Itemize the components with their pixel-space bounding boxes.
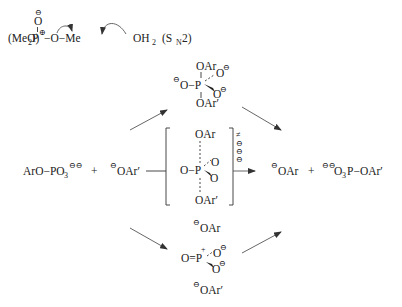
leaving-group-label: OAr <box>278 165 299 177</box>
arrow-dissociative-to-products-icon <box>242 232 281 253</box>
ts-top-oar: OAr <box>195 128 216 140</box>
water-subscript: 2 <box>152 38 156 47</box>
arrow-to-dissociative-icon <box>130 228 167 249</box>
ts-symbol: ≠ <box>236 130 241 139</box>
substrate-subscript: 3 <box>64 171 68 180</box>
ts-charge-3: ⊖ <box>236 155 243 164</box>
associative-intermediate: OAr O ⊖ ⊖ O−P O ⊖ OAr′ <box>173 60 230 109</box>
assoc-left-label: O−P <box>180 79 201 91</box>
curved-arrow-nucleophile-attack-icon <box>102 24 126 35</box>
reactants: ArO−PO 3 ⊖⊖ + ⊖ OAr′ <box>23 161 140 180</box>
nucleophile-label: OAr′ <box>117 165 140 177</box>
water-label: OH <box>133 32 150 44</box>
products-plus-sign: + <box>308 165 315 177</box>
oxide-label: O <box>34 15 42 27</box>
dissoc-left-label: O=P <box>181 252 202 264</box>
mechanism-label-close: 2) <box>182 32 192 45</box>
nucleophile-charge: ⊖ <box>110 161 117 170</box>
dissoc-bottom-oar: OAr′ <box>200 284 223 296</box>
hash-bond-icon <box>205 75 214 81</box>
assoc-bottom-oar: OAr′ <box>196 97 219 109</box>
plus-sign: + <box>91 165 98 177</box>
ts-o-upper: O <box>211 156 219 168</box>
ts-right-bracket <box>229 128 233 205</box>
assoc-left-charge: ⊖ <box>173 75 180 84</box>
dissoc-p-charge: + <box>201 245 206 254</box>
substrate-label: ArO−PO <box>23 165 65 177</box>
assoc-top-o-charge: ⊖ <box>223 63 230 72</box>
dissoc-bottom-charge: ⊖ <box>193 280 200 289</box>
dissoc-o-upper-charge: ⊖ <box>220 243 227 252</box>
dissoc-o-lower-charge: ⊖ <box>219 259 226 268</box>
substrate-charge: ⊖⊖ <box>69 161 82 170</box>
arrow-to-associative-icon <box>130 110 167 130</box>
dissociative-intermediate: ⊖ OAr O=P + O ⊖ O ⊖ ⊖ OAr′ <box>181 218 227 296</box>
ts-left-label: O−P <box>180 164 201 176</box>
ts-o-lower: O <box>210 172 218 184</box>
transition-state: OAr O−P O O OAr′ ≠ ⊖ ⊖ ⊖ <box>166 128 243 206</box>
phosphorus-label: P <box>32 32 38 44</box>
products: ⊖ OAr + ⊖⊖ O 3 P−OAr′ <box>271 161 383 180</box>
dissoc-top-charge: ⊖ <box>193 218 200 227</box>
mechanism-label: (S <box>162 32 172 45</box>
leaving-group-label: −O−Me <box>44 32 81 44</box>
leaving-group-charge: ⊖ <box>271 161 278 170</box>
sn2-example: ⊖ O (MeO) 2 P ⊕ −O−Me OH 2 (S N 2) <box>8 8 192 47</box>
ts-hash-bond <box>204 160 211 166</box>
product-rest-label: P−OAr′ <box>347 165 383 177</box>
ts-bottom-oar: OAr′ <box>195 194 218 206</box>
dissoc-top-oar: OAr <box>200 222 221 234</box>
arrow-associative-to-products-icon <box>242 107 281 130</box>
assoc-top-oar: OAr <box>196 60 217 72</box>
ts-left-bracket <box>166 128 170 205</box>
product-subscript: 3 <box>342 171 346 180</box>
reaction-mechanism-diagram: ⊖ O (MeO) 2 P ⊕ −O−Me OH 2 (S N 2) ArO−P… <box>0 0 402 307</box>
assoc-right-o-charge: ⊖ <box>220 85 227 94</box>
